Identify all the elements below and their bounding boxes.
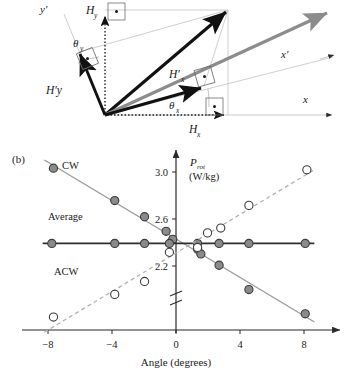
label-theta-x-subscript: x <box>175 106 180 115</box>
series-label-average: Average <box>48 211 83 222</box>
panel-a-vector-diagram: y′ x′ x H y H x H′y H′ x θ y θ x <box>39 3 334 139</box>
data-point <box>215 239 223 247</box>
x-tick-label-1: −4 <box>106 339 118 350</box>
data-point <box>303 166 311 174</box>
data-point <box>140 213 148 221</box>
y-tick-label-1: 2.6 <box>155 214 168 225</box>
y-axis-title-main: P <box>189 156 197 168</box>
figure-svg: y′ x′ x H y H x H′y H′ x θ y θ x <box>0 0 352 371</box>
trendline-acw <box>44 169 316 332</box>
panel-b-tag: (b) <box>12 153 25 166</box>
x-tick-label-3: 4 <box>237 339 243 350</box>
y-axis-units: (W/kg) <box>189 171 220 183</box>
label-theta-x: θ x <box>169 99 180 115</box>
data-point <box>215 261 223 269</box>
data-point <box>203 229 211 237</box>
data-point <box>193 243 201 251</box>
label-H-x: H x <box>188 123 201 139</box>
data-point <box>49 164 57 172</box>
series-label-cw: CW <box>62 160 79 171</box>
trendline-cw <box>44 160 314 322</box>
data-point <box>140 277 148 285</box>
figure-container: y′ x′ x H y H x H′y H′ x θ y θ x <box>0 0 352 371</box>
data-point <box>140 239 148 247</box>
y-tick-label-0: 2.2 <box>155 261 168 272</box>
x-tick-label-2: 0 <box>173 339 178 350</box>
data-point <box>165 239 173 247</box>
data-point <box>49 313 57 321</box>
label-y-prime: y′ <box>39 3 48 15</box>
data-point <box>165 248 173 256</box>
label-H-y-prime: H′y <box>45 84 63 97</box>
data-point <box>48 239 56 247</box>
data-point <box>111 196 119 204</box>
label-theta-x-main: θ <box>169 99 175 111</box>
y-axis-title: P rot <box>189 156 206 171</box>
y-tick-label-2: 3.0 <box>155 167 168 178</box>
data-point <box>111 290 119 298</box>
label-x-axis: x <box>302 93 308 105</box>
x-axis-title: Angle (degrees) <box>141 356 212 369</box>
y-axis-title-subscript: rot <box>197 163 206 171</box>
panel-b-scatter-plot: (b) −8 −4 0 4 8 <box>12 150 340 369</box>
label-theta-y-subscript: y <box>79 44 84 53</box>
label-H-x-subscript: x <box>196 130 201 139</box>
label-H-x-prime-main: H′ <box>168 68 180 80</box>
label-H-y-subscript: y <box>93 11 98 20</box>
label-H-y: H y <box>85 4 98 20</box>
data-point <box>245 201 253 209</box>
H-y-prime-vector <box>80 54 105 115</box>
x-tick-label-4: 8 <box>301 339 306 350</box>
label-theta-y-main: θ <box>73 37 79 49</box>
data-point <box>111 239 119 247</box>
data-point <box>245 239 253 247</box>
x-axis-tick-labels: −8 −4 0 4 8 <box>42 339 306 350</box>
y-axis-tick-labels: 2.2 2.6 3.0 <box>155 167 168 272</box>
series-cw <box>44 160 314 322</box>
label-H-x-prime-subscript: x <box>180 75 185 84</box>
gray-resultant-vector <box>105 13 327 115</box>
series-layer <box>43 160 316 332</box>
series-label-acw: ACW <box>54 266 79 277</box>
data-point <box>245 285 253 293</box>
data-point <box>301 310 309 318</box>
data-point <box>162 227 170 235</box>
label-x-prime: x′ <box>280 48 289 60</box>
x-tick-label-0: −8 <box>42 339 53 350</box>
data-point <box>217 224 225 232</box>
data-point <box>301 239 309 247</box>
series-acw <box>44 166 316 333</box>
